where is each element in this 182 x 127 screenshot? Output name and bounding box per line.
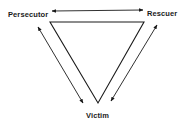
victim-label: Victim [86,111,109,120]
triangle-shape [50,22,144,103]
rescuer-label: Rescuer [147,9,177,18]
arrow-persecutor-victim [38,27,83,103]
arrow-persecutor-rescuer [52,10,143,11]
drama-triangle-diagram [0,0,182,127]
arrow-rescuer-victim [111,25,157,101]
persecutor-label: Persecutor [8,10,48,19]
